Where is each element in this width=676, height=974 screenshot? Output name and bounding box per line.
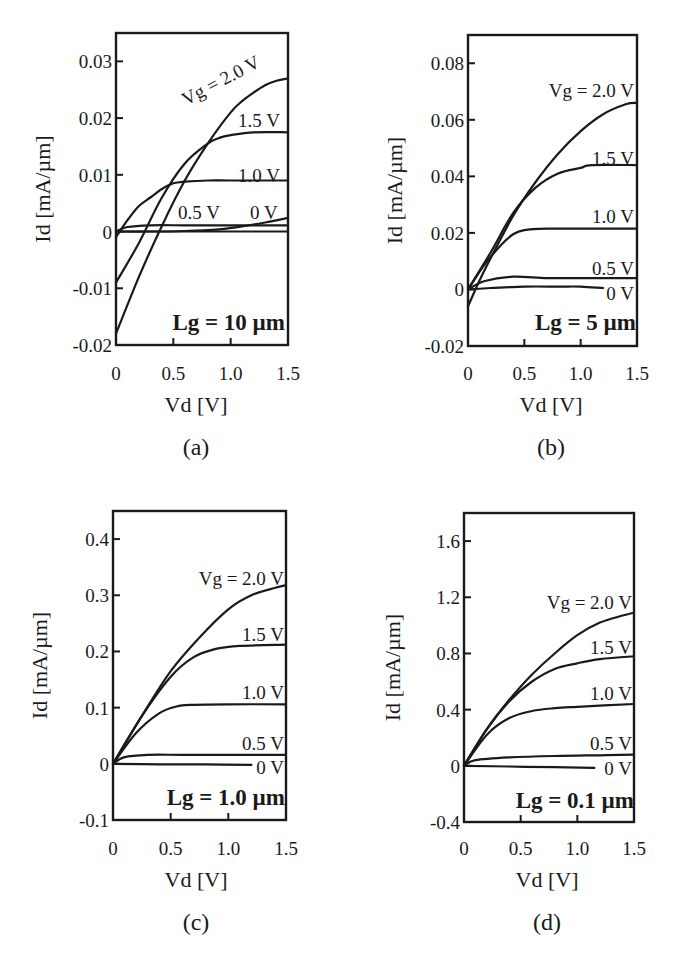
x-tick-label: 0 [108,838,118,859]
curve-label: 0 V [250,202,278,223]
curve-label: 1.0 V [238,165,280,186]
y-tick-label: 0 [100,754,110,775]
curve-label: 0 V [604,758,632,779]
y-tick-label: 0.06 [431,110,464,131]
curve-label: 0 V [256,757,284,778]
curve-label: 0 V [606,283,634,304]
curve-label: Vg = 2.0 V [549,80,635,101]
x-tick-label: 0.5 [161,363,185,384]
iv-curve [464,766,594,768]
y-axis-title: Id [mA/µm] [382,137,407,244]
x-tick-label: 0 [459,838,469,859]
x-tick-label: 1.5 [274,838,298,859]
x-tick-label: 1.0 [569,363,593,384]
panel-label: (a) [183,434,210,460]
x-tick-label: 0.5 [159,838,183,859]
x-tick-label: 0.5 [512,363,536,384]
x-tick-label: 0.5 [509,838,533,859]
x-tick-label: 1.0 [219,363,243,384]
curve-label: 1.5 V [592,148,634,169]
curve-label: Vg = 2.0 V [199,568,285,589]
x-axis-title: Vd [V] [165,392,228,417]
y-tick-label: 0.02 [431,223,464,244]
chart-panel-a: 0.030.020.010-0.01-0.0200.51.01.5Vd [V]I… [30,33,300,460]
gate-length-annotation: Lg = 5 µm [535,310,636,335]
curve-label: Vg = 2.0 V [178,51,263,110]
y-axis-title: Id [mA/µm] [27,612,52,719]
x-tick-label: 1.5 [276,363,300,384]
y-tick-label: 1.2 [436,587,460,608]
curve-label: 1.0 V [242,682,284,703]
panel-label: (c) [183,909,210,935]
curve-label: 1.5 V [238,110,280,131]
figure-canvas: 0.030.020.010-0.01-0.0200.51.01.5Vd [V]I… [0,0,676,974]
curve-label: 0.5 V [592,258,634,279]
y-tick-label: 0.03 [79,51,112,72]
y-tick-label: 0.4 [85,529,109,550]
y-tick-label: 0.04 [431,166,465,187]
x-axis-title: Vd [V] [165,867,228,892]
curve-label: 1.5 V [590,637,632,658]
curve-label: 0.5 V [178,202,220,223]
panel-label: (d) [533,909,561,935]
x-tick-label: 0 [111,363,121,384]
iv-curve [113,764,251,765]
x-tick-label: 1.5 [622,838,646,859]
chart-panel-d: 1.61.20.80.40-0.400.51.01.5Vd [V]Id [mA/… [380,513,646,935]
y-tick-label: 0.08 [431,53,464,74]
y-tick-label: 0.4 [436,700,460,721]
x-tick-label: 1.0 [565,838,589,859]
gate-length-annotation: Lg = 1.0 µm [167,785,285,810]
curve-label: 0.5 V [242,733,284,754]
y-tick-label: 0.8 [436,643,460,664]
curve-label: 1.5 V [242,624,284,645]
curve-label: 0.5 V [590,733,632,754]
y-tick-label: 0.02 [79,108,112,129]
chart-panel-b: 0.080.060.040.020-0.0200.51.01.5Vd [V]Id… [382,35,649,460]
x-tick-label: 1.5 [625,363,649,384]
y-axis-title: Id [mA/µm] [380,614,405,721]
y-tick-label: -0.02 [424,336,464,357]
y-tick-label: 0.3 [85,585,109,606]
y-axis-title: Id [mA/µm] [30,135,55,242]
y-tick-label: 1.6 [436,531,460,552]
x-axis-title: Vd [V] [520,392,583,417]
chart-panel-c: 0.40.30.20.10-0.100.51.01.5Vd [V]Id [mA/… [27,511,298,935]
y-tick-label: 0 [451,756,461,777]
panel-label: (b) [537,434,565,460]
y-tick-label: -0.01 [72,278,112,299]
gate-length-annotation: Lg = 10 µm [172,310,285,335]
y-tick-label: 0 [455,279,465,300]
y-tick-label: 0 [103,222,113,243]
curve-label: 1.0 V [590,683,632,704]
y-tick-label: -0.4 [430,812,461,833]
y-tick-label: 0.1 [85,698,109,719]
x-tick-label: 0 [463,363,473,384]
y-tick-label: -0.02 [72,335,112,356]
y-tick-label: -0.1 [79,810,109,831]
gate-length-annotation: Lg = 0.1 µm [516,788,634,813]
curve-label: Vg = 2.0 V [547,592,633,613]
x-tick-label: 1.0 [216,838,240,859]
y-tick-label: 0.2 [85,641,109,662]
curve-label: 1.0 V [592,206,634,227]
iv-curve [468,287,603,290]
x-axis-title: Vd [V] [516,867,579,892]
y-tick-label: 0.01 [79,165,112,186]
